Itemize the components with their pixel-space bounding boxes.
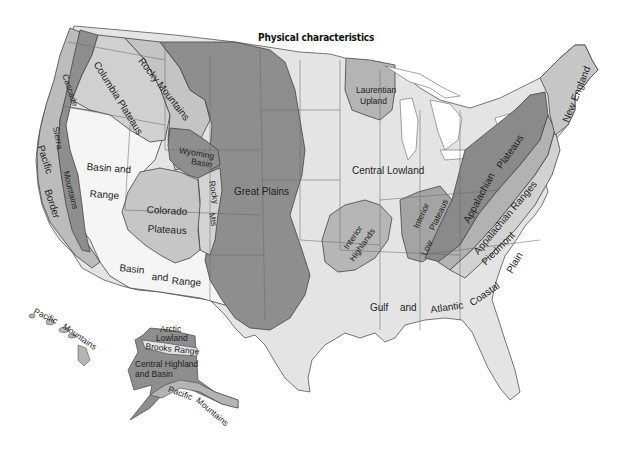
label-central-lowland: Central Lowland (352, 166, 424, 176)
label-and-basin: and Basin (135, 370, 173, 379)
label-and-south: and (151, 272, 168, 283)
label-plateaus: Plateaus (147, 224, 186, 236)
label-mts: Mts (208, 212, 219, 227)
label-great-plains: Great Plains (234, 187, 289, 197)
label-gulf: Gulf (370, 303, 388, 313)
label-central-highland: Central Highland (135, 360, 198, 369)
label-and-gulf: and (400, 303, 417, 313)
map-title: Physical characteristics (258, 31, 374, 43)
label-lowland: Lowland (156, 334, 188, 343)
label-range: Range (89, 189, 119, 201)
label-colorado: Colorado (146, 205, 187, 217)
label-upland: Upland (360, 97, 387, 106)
label-range-south: Range (171, 276, 201, 288)
label-laurentian: Laurentian (356, 86, 396, 95)
